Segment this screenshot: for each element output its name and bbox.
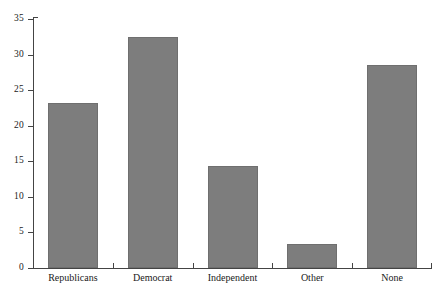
y-tick-label: 30 — [0, 50, 24, 60]
y-tick-label: 0 — [0, 263, 24, 273]
x-axis-line — [33, 268, 432, 269]
y-axis-top-cap — [33, 17, 38, 18]
y-tick-label-text: 15 — [0, 156, 24, 166]
y-tick-label: 35 — [0, 14, 24, 24]
y-tick-label-text: 5 — [0, 227, 24, 237]
y-tick-label: 10 — [0, 192, 24, 202]
y-tick-label: 20 — [0, 121, 24, 131]
y-tick-label-text: 10 — [0, 192, 24, 202]
plot-area — [33, 19, 432, 268]
y-tick-mark — [28, 268, 34, 269]
bar-other — [287, 244, 337, 268]
y-tick-label: 25 — [0, 85, 24, 95]
y-tick-label-text: 20 — [0, 121, 24, 131]
x-axis-label-republicans: Republicans — [33, 272, 113, 284]
bar-republicans — [48, 103, 98, 268]
y-tick-label: 5 — [0, 227, 24, 237]
bar-democrat — [128, 37, 178, 268]
bar-none — [367, 65, 417, 268]
x-axis-label-democrat: Democrat — [113, 272, 193, 284]
y-tick-label-text: 35 — [0, 14, 24, 24]
y-tick-label-text: 0 — [0, 263, 24, 273]
x-axis-label-other: Other — [272, 272, 352, 284]
y-tick-label-text: 30 — [0, 50, 24, 60]
x-axis-label-independent: Independent — [193, 272, 273, 284]
y-tick-label-text: 25 — [0, 85, 24, 95]
y-tick-label: 15 — [0, 156, 24, 166]
x-axis-label-none: None — [352, 272, 432, 284]
bar-chart-figure: 05101520253035 RepublicansDemocratIndepe… — [0, 0, 445, 295]
bar-independent — [208, 166, 258, 268]
